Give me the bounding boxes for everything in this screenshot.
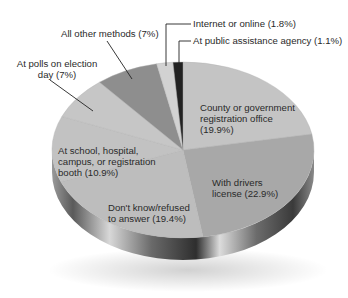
label-internet: Internet or online (1.8%)	[193, 18, 296, 29]
label-school-line2: campus, or registration	[58, 156, 156, 167]
label-county: County or government registration office…	[200, 102, 295, 135]
label-county-line2: registration office	[200, 113, 295, 124]
leader-line-internet	[166, 24, 191, 66]
leader-line-publicassist	[179, 41, 191, 64]
label-county-line1: County or government	[200, 102, 295, 113]
label-polls-line1: At polls on election	[16, 58, 98, 69]
label-school-line1: At school, hospital,	[58, 145, 156, 156]
label-polls-line2: day (7%)	[16, 69, 98, 80]
label-drivers-line1: With drivers	[212, 177, 278, 188]
label-school: At school, hospital, campus, or registra…	[58, 145, 156, 178]
label-publicassist: At public assistance agency (1.1%)	[193, 35, 342, 46]
label-dontknow-line2: to answer (19.4%)	[108, 213, 190, 224]
label-polls: At polls on election day (7%)	[16, 58, 98, 80]
label-drivers-line2: license (22.9%)	[212, 188, 278, 199]
label-dontknow-line1: Don't know/refused	[108, 202, 190, 213]
label-other: All other methods (7%)	[61, 28, 159, 39]
label-school-line3: booth (10.9%)	[58, 167, 156, 178]
label-county-line3: (19.9%)	[200, 124, 295, 135]
label-dontknow: Don't know/refused to answer (19.4%)	[108, 202, 190, 224]
label-drivers: With drivers license (22.9%)	[212, 177, 278, 199]
